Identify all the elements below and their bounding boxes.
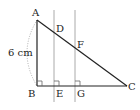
side-ac [37,20,127,86]
label-c: C [128,81,136,92]
right-angle-mark-b [37,81,42,86]
label-a: A [31,7,40,18]
label-d: D [56,23,64,34]
right-angle-mark-e [54,81,59,86]
label-b: B [28,88,35,99]
measurement-label: 6 cm [8,47,33,58]
label-f: F [77,39,84,50]
label-e: E [56,88,63,99]
right-angle-mark-g [75,81,80,86]
geometry-diagram: A D F B E G C 6 cm [0,0,140,110]
label-g: G [77,88,85,99]
